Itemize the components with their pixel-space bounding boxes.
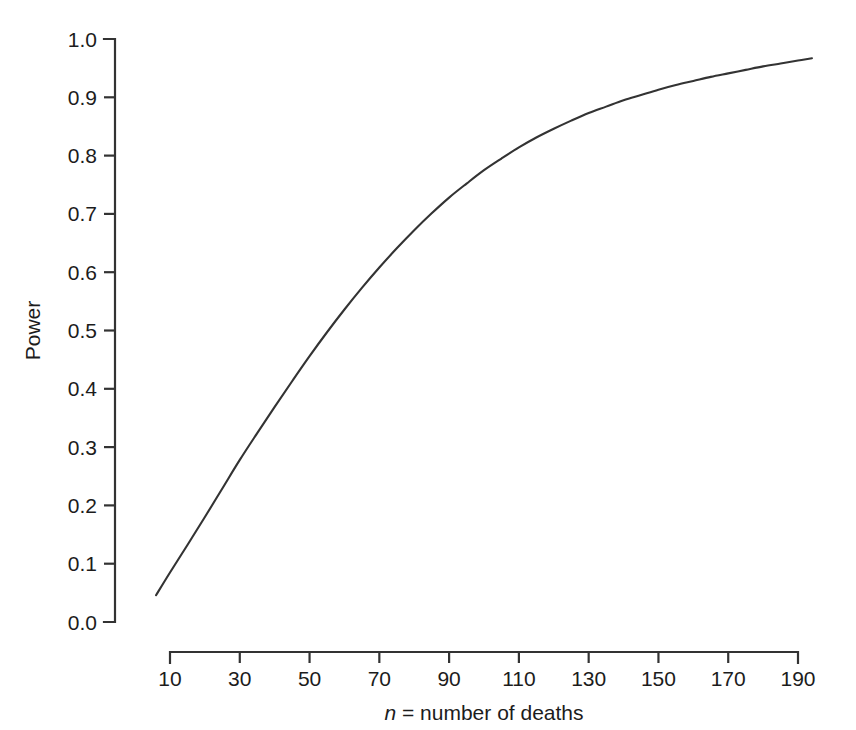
x-tick-label: 190 [780,667,815,690]
x-tick-label: 10 [158,667,181,690]
y-axis-title-text: Power [21,301,44,361]
x-axis-title-n: n [384,701,396,724]
y-tick-label: 0.6 [68,261,97,284]
y-tick-label: 0.3 [68,436,97,459]
y-axis: 0.00.10.20.30.40.50.60.70.80.91.0 [68,28,115,634]
x-tick-label: 90 [437,667,460,690]
power-curve-line [156,58,812,595]
y-axis-title: Power [21,301,44,361]
y-tick-label: 0.8 [68,144,97,167]
data-series-curve [156,58,812,595]
x-axis-title-text: n = number of deaths [384,701,583,724]
x-axis-line [170,652,798,663]
x-tick-label: 170 [711,667,746,690]
x-axis-title-rest: = number of deaths [396,701,583,724]
y-tick-label: 0.7 [68,202,97,225]
x-axis-title: n = number of deaths [384,701,583,724]
y-tick-label: 0.2 [68,494,97,517]
x-axis: 1030507090110130150170190 [158,652,815,690]
y-tick-label: 1.0 [68,28,97,51]
y-tick-label: 0.4 [68,377,98,400]
x-tick-label: 30 [228,667,251,690]
x-tick-label: 110 [502,667,535,690]
x-tick-label: 130 [571,667,606,690]
x-tick-label: 50 [298,667,321,690]
x-tick-label: 70 [368,667,391,690]
x-tick-label: 150 [641,667,676,690]
power-curve-chart: 0.00.10.20.30.40.50.60.70.80.91.0 103050… [0,0,856,730]
y-tick-label: 0.1 [68,552,97,575]
y-tick-label: 0.5 [68,319,97,342]
y-tick-label: 0.0 [68,611,97,634]
y-tick-label: 0.9 [68,86,97,109]
chart-figure: 0.00.10.20.30.40.50.60.70.80.91.0 103050… [0,0,856,730]
